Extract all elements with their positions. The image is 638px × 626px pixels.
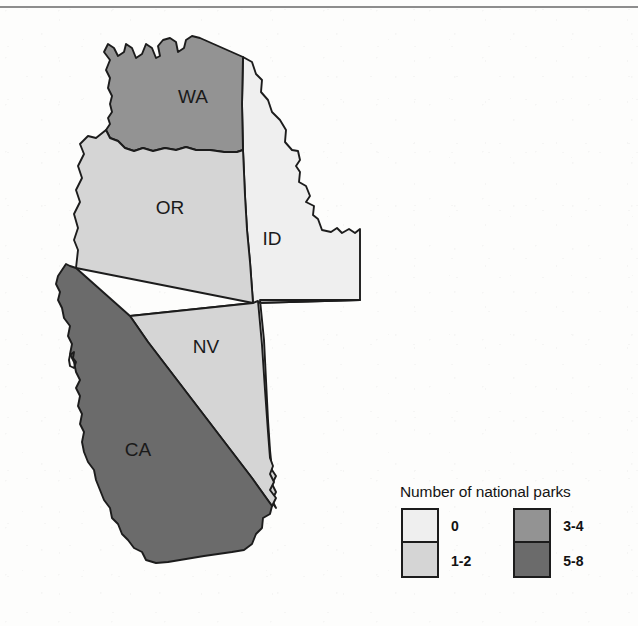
map-state-id[interactable] bbox=[242, 57, 360, 303]
legend-columns: 0 1-2 3-4 5-8 bbox=[401, 508, 634, 578]
legend-entry[interactable]: 1-2 bbox=[401, 543, 471, 578]
legend-label-3-4: 3-4 bbox=[563, 518, 583, 534]
legend-title: Number of national parks bbox=[400, 483, 634, 501]
legend-entry[interactable]: 3-4 bbox=[513, 508, 583, 543]
legend-swatch-3-4 bbox=[513, 508, 551, 543]
map-label-wa: WA bbox=[178, 86, 208, 107]
map-label-nv: NV bbox=[193, 336, 220, 357]
map-label-id: ID bbox=[263, 228, 282, 249]
legend-label-5-8: 5-8 bbox=[563, 553, 583, 569]
legend-entry[interactable]: 5-8 bbox=[513, 543, 583, 578]
legend-swatch-1-2 bbox=[401, 543, 439, 578]
legend-entry[interactable]: 0 bbox=[401, 508, 471, 543]
legend-label-0: 0 bbox=[451, 518, 459, 534]
legend-label-1-2: 1-2 bbox=[451, 553, 471, 569]
legend-swatch-0 bbox=[401, 508, 439, 543]
map-label-ca: CA bbox=[125, 439, 152, 460]
map-legend: Number of national parks 0 1-2 3-4 bbox=[398, 483, 634, 578]
map-label-or: OR bbox=[156, 197, 185, 218]
figure-page: WA OR ID NV CA Number of national parks … bbox=[0, 0, 638, 626]
legend-column-right: 3-4 5-8 bbox=[513, 508, 583, 578]
map-state-wa[interactable] bbox=[104, 36, 243, 152]
legend-swatch-5-8 bbox=[513, 543, 551, 578]
legend-column-left: 0 1-2 bbox=[401, 508, 471, 578]
